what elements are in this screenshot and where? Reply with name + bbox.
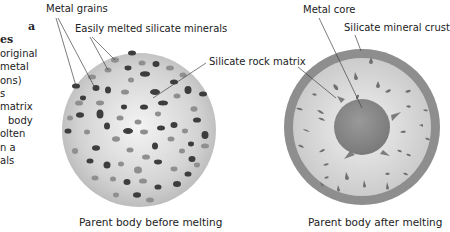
label-silicate-mineral-crust: Silicate mineral crust [344,22,450,33]
label-metal-core: Metal core [303,4,355,15]
parent-body-before [62,51,216,208]
parent-body-after [284,49,440,205]
caption-before-melting: Parent body before melting [79,216,222,228]
label-easily-melted-silicates: Easily melted silicate minerals [75,23,227,34]
label-metal-grains: Metal grains [46,3,108,14]
caption-after-melting: Parent body after melting [308,216,442,228]
label-silicate-rock-matrix: Silicate rock matrix [209,56,306,67]
